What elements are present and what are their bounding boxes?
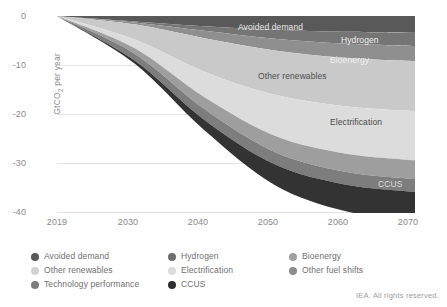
y-tick-40: -40 <box>0 208 26 217</box>
legend-item-label: Other renewables <box>44 266 113 275</box>
legend-swatch-icon <box>31 267 39 275</box>
copyright-credit: IEA. All rights reserved. <box>356 291 439 300</box>
y-tick-20: -20 <box>0 110 26 119</box>
legend-swatch-icon <box>31 253 39 261</box>
legend-swatch-icon <box>168 281 176 289</box>
legend-item-other-fuel-shifts[interactable]: Other fuel shifts <box>289 264 363 277</box>
legend-item-other-renewables[interactable]: Other renewables <box>31 264 139 277</box>
y-tick-0: 0 <box>0 12 26 21</box>
legend-item-label: Technology performance <box>44 280 139 289</box>
legend-swatch-icon <box>289 253 297 261</box>
x-tick-2040: 2040 <box>175 218 221 227</box>
band-label-ccus: CCUS <box>378 180 403 189</box>
chart-legend: Avoided demandOther renewablesTechnology… <box>31 250 431 290</box>
legend-item-label: Bioenergy <box>302 252 341 261</box>
legend-item-avoided-demand[interactable]: Avoided demand <box>31 250 139 263</box>
x-tick-2030: 2030 <box>105 218 151 227</box>
legend-item-ccus[interactable]: CCUS <box>168 278 233 291</box>
legend-item-label: Avoided demand <box>44 252 109 261</box>
band-label-avoided-demand: Avoided demand <box>238 23 303 32</box>
legend-column-1: Avoided demandOther renewablesTechnology… <box>31 250 139 292</box>
chart-container: GtCO2 per year 0 -10 -20 -30 -40 Avoided… <box>0 0 447 307</box>
legend-item-label: Electrification <box>181 266 233 275</box>
legend-item-label: Other fuel shifts <box>302 266 363 275</box>
band-label-electrification: Electrification <box>330 118 382 127</box>
legend-swatch-icon <box>289 267 297 275</box>
legend-item-hydrogen[interactable]: Hydrogen <box>168 250 233 263</box>
legend-column-2: HydrogenElectrificationCCUS <box>168 250 233 292</box>
x-tick-2070: 2070 <box>385 218 431 227</box>
x-tick-2060: 2060 <box>315 218 361 227</box>
legend-item-electrification[interactable]: Electrification <box>168 264 233 277</box>
band-label-other-renewables: Other renewables <box>258 72 327 81</box>
stacked-area-series <box>57 16 415 213</box>
legend-column-3: BioenergyOther fuel shifts <box>289 250 363 278</box>
y-tick-10: -10 <box>0 61 26 70</box>
plot-area <box>57 16 415 213</box>
legend-swatch-icon <box>31 281 39 289</box>
legend-swatch-icon <box>168 253 176 261</box>
legend-item-label: CCUS <box>181 280 206 289</box>
y-tick-30: -30 <box>0 159 26 168</box>
legend-item-technology-performance[interactable]: Technology performance <box>31 278 139 291</box>
band-label-bioenergy: Bioenergy <box>330 56 369 65</box>
legend-item-label: Hydrogen <box>181 252 219 261</box>
band-label-hydrogen: Hydrogen <box>341 36 379 45</box>
legend-item-bioenergy[interactable]: Bioenergy <box>289 250 363 263</box>
x-tick-2050: 2050 <box>245 218 291 227</box>
legend-swatch-icon <box>168 267 176 275</box>
x-tick-2019: 2019 <box>34 218 80 227</box>
